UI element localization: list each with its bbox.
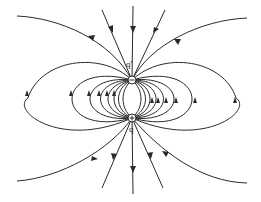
arrowheads bbox=[25, 25, 237, 173]
field-lines bbox=[17, 6, 247, 194]
charge-label-bottom: q bbox=[129, 124, 134, 134]
charge-label-top: q' bbox=[126, 59, 132, 69]
charge-bottom bbox=[128, 114, 136, 122]
dipole-diagram: q' q bbox=[0, 0, 261, 202]
charge-top bbox=[128, 76, 136, 84]
field-lines-canvas bbox=[0, 0, 261, 202]
